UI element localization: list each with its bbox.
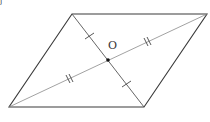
point-label-o: O — [108, 40, 117, 51]
double-tick-upper — [144, 37, 151, 46]
intersection-point — [106, 58, 110, 62]
parallelogram-figure — [0, 0, 210, 122]
diagram-canvas: j O — [0, 0, 210, 122]
single-tick-lower — [122, 81, 131, 87]
single-tick-upper — [85, 33, 94, 39]
